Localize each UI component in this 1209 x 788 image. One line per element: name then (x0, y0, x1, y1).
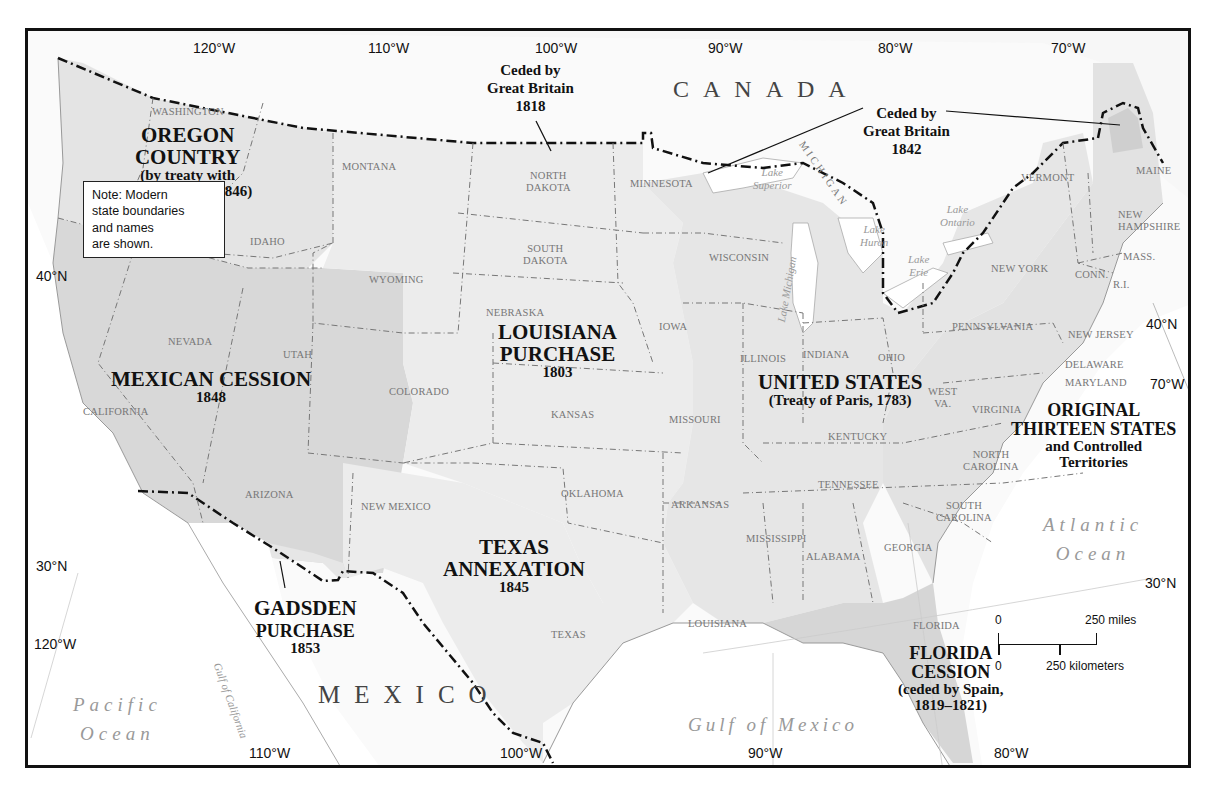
state-mississippi: MISSISSIPPI (746, 533, 807, 545)
label-pacific-ocean: Pacific Ocean (73, 691, 162, 748)
label-atlantic-ocean: Atlantic Ocean (1043, 511, 1143, 568)
coord-right-40n: 40°N (1146, 317, 1177, 332)
note-line-4: are shown. (92, 237, 153, 251)
state-kentucky: KENTUCKY (828, 431, 887, 443)
state-south-carolina: SOUTH CAROLINA (936, 500, 992, 523)
region-original-thirteen: ORIGINAL THIRTEEN STATES and Controlled … (1011, 401, 1176, 470)
south-carolina-line-1: SOUTH (946, 500, 982, 511)
new-hampshire-line-1: NEW (1118, 209, 1143, 220)
scale-km-zero: 0 (995, 659, 1002, 673)
state-alabama: ALABAMA (806, 551, 861, 563)
label-mexico: MEXICO (318, 681, 501, 709)
state-tennessee: TENNESSEE (818, 479, 879, 491)
original-thirteen-sub-1: and Controlled (1011, 439, 1176, 455)
coord-bottom-80w: 80°W (994, 746, 1028, 761)
state-indiana: INDIANA (803, 349, 849, 361)
state-florida: FLORIDA (913, 620, 960, 632)
texas-annexation-line-1: TEXAS (479, 535, 549, 559)
region-united-states-1783: UNITED STATES (Treaty of Paris, 1783) (758, 371, 922, 409)
gadsden-purchase-line-1: GADSDEN (254, 596, 357, 620)
label-ceded-1818: Ceded by Great Britain 1818 (487, 61, 574, 115)
note-line-1: Note: Modern (92, 188, 168, 202)
south-dakota-line-1: SOUTH (527, 243, 563, 254)
lake-ontario-line-1: Lake (947, 203, 968, 215)
state-maine: MAINE (1136, 165, 1171, 177)
state-california: CALIFORNIA (83, 406, 149, 418)
south-carolina-line-2: CAROLINA (936, 512, 992, 523)
coord-left-120w: 120°W (34, 637, 76, 652)
coord-bottom-110w: 110°W (249, 746, 290, 761)
state-iowa: IOWA (659, 321, 687, 333)
lake-erie-line-2: Erie (909, 266, 928, 278)
state-west-virginia: WEST VA. (928, 386, 957, 409)
state-illinois: ILLINOIS (740, 353, 786, 365)
lake-huron-line-2: Huron (860, 236, 888, 248)
north-dakota-line-1: NORTH (530, 170, 567, 181)
state-idaho: IDAHO (250, 236, 285, 248)
scale-line (998, 633, 1097, 645)
state-south-dakota: SOUTH DAKOTA (523, 243, 568, 266)
state-nebraska: NEBRASKA (486, 307, 544, 319)
note-line-2: state boundaries (92, 204, 184, 218)
atlantic-line-1: Atlantic (1043, 514, 1143, 535)
state-ohio: OHIO (878, 352, 905, 364)
region-mexican-cession: MEXICAN CESSION 1848 (111, 368, 311, 406)
lake-superior-line-2: Superior (753, 179, 792, 191)
region-louisiana-purchase: LOUISIANA PURCHASE 1803 (498, 321, 617, 381)
texas-annexation-year: 1845 (443, 580, 585, 596)
atlantic-line-2: Ocean (1056, 543, 1131, 564)
united-states-line-1: UNITED STATES (758, 370, 922, 394)
coord-bottom-100w: 100°W (500, 746, 542, 761)
original-thirteen-sub-2: Territories (1011, 455, 1176, 471)
scale-km-tick (1059, 645, 1061, 655)
state-utah: UTAH (283, 349, 312, 361)
lake-huron-line-1: Lake (863, 223, 884, 235)
state-missouri: MISSOURI (669, 414, 721, 426)
state-arkansas: ARKANSAS (671, 499, 729, 511)
original-thirteen-line-1: ORIGINAL (1047, 400, 1140, 420)
louisiana-purchase-year: 1803 (498, 365, 617, 381)
lake-ontario-line-2: Ontario (940, 216, 975, 228)
region-florida-cession: FLORIDA CESSION (ceded by Spain, 1819–18… (898, 644, 1003, 713)
new-hampshire-line-2: HAMPSHIRE (1118, 221, 1180, 232)
label-lake-huron: Lake Huron (860, 223, 888, 249)
state-pennsylvania: PENNSYLVANIA (952, 321, 1033, 333)
state-kansas: KANSAS (551, 409, 594, 421)
florida-cession-sub-2: 1819–1821) (898, 698, 1003, 714)
state-new-mexico: NEW MEXICO (361, 501, 431, 513)
note-box: Note: Modern state boundaries and names … (83, 181, 225, 258)
state-wisconsin: WISCONSIN (709, 252, 769, 264)
ceded-1842-year: 1842 (891, 141, 921, 157)
original-thirteen-line-2: THIRTEEN STATES (1011, 419, 1176, 439)
state-maryland: MARYLAND (1065, 377, 1127, 389)
scale-miles-zero: 0 (995, 613, 1002, 627)
state-new-hampshire: NEW HAMPSHIRE (1118, 209, 1180, 232)
state-vermont: VERMONT (1021, 172, 1074, 184)
state-washington: WASHINGTON (152, 106, 224, 118)
united-states-sub: (Treaty of Paris, 1783) (758, 393, 922, 409)
state-rhode-island: R.I. (1113, 279, 1130, 291)
west-virginia-line-1: WEST (928, 386, 957, 397)
mexican-cession-line-1: MEXICAN CESSION (111, 367, 311, 391)
lake-superior-line-1: Lake (762, 166, 783, 178)
ceded-1842-line-1: Ceded by (876, 105, 936, 121)
oregon-country-line-1: OREGON (141, 123, 234, 147)
mexican-cession-year: 1848 (111, 390, 311, 406)
florida-cession-line-2: CESSION (911, 662, 990, 682)
ceded-1842-line-2: Great Britain (863, 123, 950, 139)
north-carolina-line-1: NORTH (973, 449, 1010, 460)
oregon-country-line-2: COUNTRY (135, 145, 240, 169)
state-new-york: NEW YORK (991, 263, 1048, 275)
coord-left-40n: 40°N (36, 269, 67, 284)
state-louisiana: LOUISIANA (688, 618, 747, 630)
coord-right-30n: 30°N (1145, 576, 1176, 591)
leader-gadsden (280, 561, 285, 588)
state-nevada: NEVADA (168, 336, 212, 348)
coord-top-120w: 120°W (193, 41, 235, 56)
coord-top-90w: 90°W (708, 41, 742, 56)
state-connecticut: CONN. (1075, 269, 1108, 281)
ceded-1818-line-1: Ceded by (500, 62, 560, 78)
south-dakota-line-2: DAKOTA (523, 255, 568, 266)
louisiana-purchase-line-1: LOUISIANA (498, 320, 617, 344)
scale-zero-tick (998, 645, 1000, 655)
